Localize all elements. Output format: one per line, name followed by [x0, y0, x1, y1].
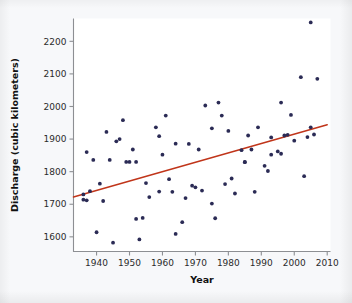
data-point — [230, 177, 234, 181]
y-tick-label-1900: 1900 — [44, 134, 67, 144]
x-tick-label-2000: 2000 — [283, 258, 306, 268]
data-point — [190, 184, 194, 188]
data-point — [167, 177, 171, 181]
data-point — [217, 101, 221, 105]
data-point — [137, 238, 141, 242]
data-point — [194, 185, 198, 189]
y-tick-label-1800: 1800 — [44, 167, 67, 177]
y-tick-label-1600: 1600 — [44, 232, 67, 242]
data-point — [220, 114, 224, 118]
data-point — [157, 134, 161, 138]
data-point — [292, 139, 296, 143]
data-point — [200, 189, 204, 193]
data-point — [147, 195, 151, 199]
data-point — [279, 101, 283, 105]
data-point — [131, 148, 135, 152]
data-point — [263, 164, 267, 168]
data-point — [309, 21, 313, 25]
data-point — [111, 241, 115, 245]
data-point — [276, 150, 280, 154]
data-point — [174, 232, 178, 236]
data-point — [85, 150, 89, 154]
data-point — [128, 160, 132, 164]
data-point — [286, 133, 290, 137]
data-point — [174, 142, 178, 146]
data-point — [81, 193, 85, 197]
data-point — [282, 134, 286, 138]
data-point — [124, 160, 128, 164]
x-tick-label-1970: 1970 — [184, 258, 207, 268]
data-point — [81, 198, 85, 202]
y-tick-label-1700: 1700 — [44, 199, 67, 209]
x-tick-label-1980: 1980 — [217, 258, 240, 268]
x-tick-label-1960: 1960 — [151, 258, 174, 268]
data-point — [197, 148, 201, 152]
data-point — [108, 158, 112, 162]
data-point — [266, 169, 270, 173]
data-point — [170, 190, 174, 194]
data-point — [85, 198, 89, 202]
y-tick-label-2200: 2200 — [44, 37, 67, 47]
x-tick-label-1990: 1990 — [250, 258, 273, 268]
discharge-vs-year-scatter-chart: 1600170018001900200021002200194019501960… — [0, 0, 352, 303]
x-tick-label-1940: 1940 — [85, 258, 108, 268]
data-point — [105, 130, 109, 134]
data-point — [289, 113, 293, 117]
data-point — [95, 230, 99, 234]
data-point — [203, 104, 207, 108]
data-point — [210, 126, 214, 130]
data-point — [118, 137, 122, 141]
y-tick-label-2000: 2000 — [44, 102, 67, 112]
data-point — [269, 153, 273, 157]
data-point — [134, 217, 138, 221]
data-point — [246, 134, 250, 138]
data-point — [240, 148, 244, 152]
data-point — [269, 136, 273, 140]
data-point — [144, 181, 148, 185]
data-point — [157, 190, 161, 194]
data-point — [154, 125, 158, 129]
data-point — [243, 160, 247, 164]
data-point — [306, 135, 310, 139]
data-point — [233, 192, 237, 196]
data-point — [312, 133, 316, 137]
data-point — [256, 125, 260, 129]
data-point — [210, 202, 214, 206]
data-point — [121, 118, 125, 122]
x-axis-title: Year — [189, 274, 214, 285]
data-point — [98, 182, 102, 186]
data-point — [250, 148, 254, 152]
data-point — [213, 216, 217, 220]
data-point — [161, 153, 165, 157]
data-point — [141, 216, 145, 220]
data-point — [299, 75, 303, 79]
data-point — [184, 196, 188, 200]
data-point — [88, 189, 92, 193]
data-point — [253, 190, 257, 194]
data-point — [309, 125, 313, 129]
x-tick-label-2010: 2010 — [316, 258, 339, 268]
data-point — [279, 152, 283, 156]
data-point — [180, 220, 184, 224]
data-point — [226, 129, 230, 133]
data-point — [101, 199, 105, 203]
scatter-plot-figure: 1600170018001900200021002200194019501960… — [0, 0, 352, 303]
data-point — [187, 142, 191, 146]
data-point — [134, 160, 138, 164]
data-point — [302, 174, 306, 178]
data-point — [114, 139, 118, 143]
data-point — [164, 114, 168, 118]
y-tick-label-2100: 2100 — [44, 69, 67, 79]
data-point — [91, 158, 95, 162]
data-point — [315, 77, 319, 81]
y-axis-title: Discharge (cubic kilometers) — [9, 58, 20, 212]
x-tick-label-1950: 1950 — [118, 258, 141, 268]
data-point — [223, 182, 227, 186]
